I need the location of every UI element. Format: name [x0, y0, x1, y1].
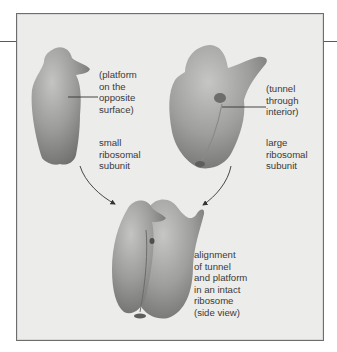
platform-callout-text: (platform on the opposite surface) — [99, 69, 137, 115]
intact-ribosome-caption: alignment of tunnel and platform in an i… — [194, 249, 247, 319]
arrow-large-to-intact — [203, 166, 231, 205]
small-subunit-label: small ribosomal subunit — [99, 137, 141, 172]
ribosome-illustration — [0, 0, 337, 352]
large-subunit-label: large ribosomal subunit — [266, 137, 308, 172]
tunnel-callout-text: (tunnel through interior) — [266, 83, 299, 118]
intact-ribosome-shape — [112, 199, 204, 318]
small-subunit-shape — [32, 47, 90, 164]
